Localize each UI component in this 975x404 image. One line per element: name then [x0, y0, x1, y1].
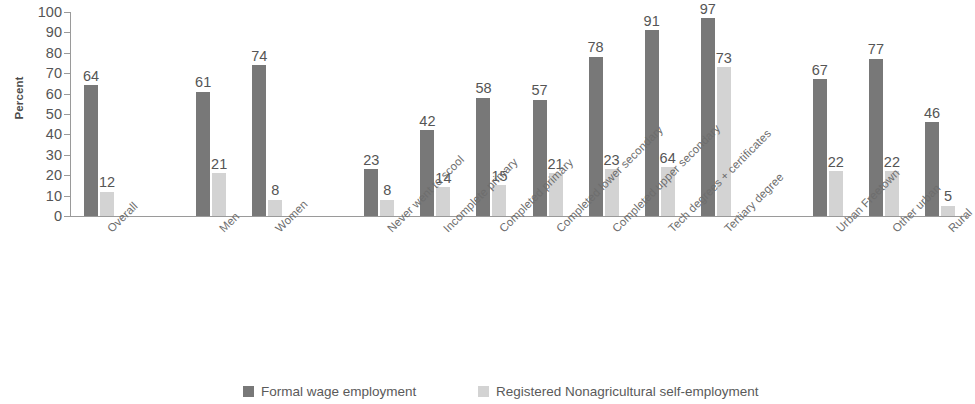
legend-label: Registered Nonagricultural self-employme…: [496, 384, 759, 399]
bar-group: 238: [364, 12, 394, 216]
bar-value-label: 8: [367, 183, 407, 198]
y-axis-tick-label: 90: [28, 25, 62, 40]
legend-label: Formal wage employment: [261, 384, 416, 399]
bar: [212, 173, 226, 216]
bar: [268, 200, 282, 216]
legend-item: Formal wage employment: [243, 384, 416, 399]
y-axis-tick-mark: [64, 12, 71, 13]
bar-value-label: 12: [87, 175, 127, 190]
bar-chart: Percent 1009080706050403020100 641261217…: [0, 0, 975, 404]
bar-group: 6121: [196, 12, 226, 216]
y-axis-tick-label: 10: [28, 189, 62, 204]
y-axis-tick-label: 0: [28, 209, 62, 224]
y-axis-tick-mark: [64, 114, 71, 115]
bar: [941, 206, 955, 216]
y-axis-tick-mark: [64, 134, 71, 135]
bar-value-label: 8: [255, 183, 295, 198]
bar-value-label: 58: [463, 81, 503, 96]
legend-swatch: [478, 386, 489, 397]
y-axis-tick-mark: [64, 175, 71, 176]
bar-value-label: 22: [816, 155, 856, 170]
chart-legend: Formal wage employmentRegistered Nonagri…: [0, 384, 975, 404]
bar: [84, 85, 98, 216]
bar-value-label: 57: [520, 83, 560, 98]
y-axis-tick-label: 20: [28, 168, 62, 183]
bar-value-label: 97: [688, 2, 728, 17]
y-axis-tick-mark: [64, 196, 71, 197]
bar-value-label: 42: [407, 114, 447, 129]
legend-item: Registered Nonagricultural self-employme…: [478, 384, 759, 399]
bar-group: 748: [252, 12, 282, 216]
y-axis-tick-label: 100: [28, 5, 62, 20]
y-axis-tick-label: 80: [28, 46, 62, 61]
y-axis-tick-label: 60: [28, 87, 62, 102]
y-axis-tick-label: 30: [28, 148, 62, 163]
y-axis-tick-label: 40: [28, 127, 62, 142]
y-axis-tick-mark: [64, 155, 71, 156]
bar-value-label: 77: [856, 42, 896, 57]
bar-value-label: 91: [632, 14, 672, 29]
bar-value-label: 21: [199, 157, 239, 172]
y-axis-tick-mark: [64, 32, 71, 33]
bar-value-label: 78: [576, 40, 616, 55]
bar-value-label: 46: [912, 106, 952, 121]
x-axis-category-labels: OverallMenWomenNever went to scoolIncomp…: [71, 222, 968, 342]
bar-group: 6412: [84, 12, 114, 216]
y-axis-tick-labels: 1009080706050403020100: [22, 0, 62, 404]
bar: [829, 171, 843, 216]
legend-swatch: [243, 386, 254, 397]
y-axis-tick-mark: [64, 216, 71, 217]
y-axis-tick-label: 50: [28, 107, 62, 122]
bar-value-label: 64: [71, 69, 111, 84]
bar-value-label: 73: [704, 51, 744, 66]
bar-value-label: 67: [800, 63, 840, 78]
bar: [436, 187, 450, 216]
bar: [380, 200, 394, 216]
y-axis-tick-mark: [64, 94, 71, 95]
bar: [100, 192, 114, 216]
bar-value-label: 74: [239, 49, 279, 64]
bar-value-label: 23: [351, 153, 391, 168]
y-axis-tick-label: 70: [28, 66, 62, 81]
bar: [196, 92, 210, 216]
bar-group: 6722: [813, 12, 843, 216]
bar: [492, 185, 506, 216]
plot-area: 6412612174823842145815572178239164977367…: [71, 12, 968, 216]
y-axis-tick-mark: [64, 53, 71, 54]
bar-value-label: 61: [183, 75, 223, 90]
y-axis-tick-mark: [64, 73, 71, 74]
bar: [717, 67, 731, 216]
bar: [813, 79, 827, 216]
